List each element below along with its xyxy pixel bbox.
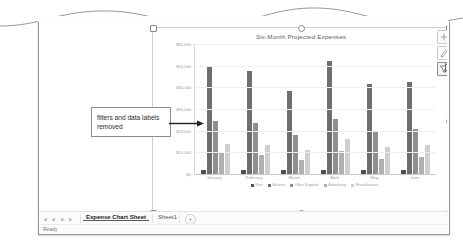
bar[interactable] [361,170,366,174]
gridline [195,44,436,45]
bar[interactable] [201,170,206,174]
chart-side-buttons [437,30,447,78]
x-axis-tick-label: June [396,175,434,180]
legend-swatch [251,184,254,187]
bar[interactable] [327,61,332,174]
plot-area[interactable] [194,44,436,175]
bar[interactable] [265,145,270,174]
nav-next-sheet-button[interactable]: ▶ [61,216,65,222]
chart-sheet-canvas: Six-Month Projected Expenses $60,000$50,… [39,23,447,211]
bar[interactable] [293,135,298,174]
legend-item[interactable]: Office Supplies [290,183,319,187]
y-axis-tick-label: $40,000 [176,85,191,90]
legend-item[interactable]: Rent [251,183,263,187]
chart-handle-middle-right[interactable] [446,118,447,125]
x-axis-labels[interactable]: JanuaryFebruaryMarchAprilMayJune [194,175,435,180]
chart-title[interactable]: Six-Month Projected Expenses [153,33,447,40]
bar[interactable] [299,160,304,174]
y-axis-tick-label: $20,000 [176,128,191,133]
legend-label: Rent [255,183,263,187]
bar[interactable] [425,145,430,174]
bar[interactable] [207,66,212,174]
bar[interactable] [259,155,264,175]
plus-icon [439,32,447,42]
chart-elements-button[interactable] [437,30,447,44]
chart-handle-top-left[interactable] [150,25,157,32]
bar[interactable] [225,144,230,174]
bar[interactable] [287,91,292,174]
bar[interactable] [407,82,412,174]
status-text: Ready [43,226,57,232]
status-bar: Ready [39,224,447,234]
legend-label: Advertising [328,183,346,187]
y-axis-tick-label: $60,000 [176,42,191,47]
y-axis-tick-label: $50,000 [176,63,191,68]
figure-page: Six-Month Projected Expenses $60,000$50,… [0,0,463,247]
nav-prev-sheet-button[interactable]: ◀ [51,216,55,222]
bar[interactable] [379,159,384,174]
bar[interactable] [333,119,338,174]
y-axis-tick-label: $10,000 [176,150,191,155]
x-axis-tick-label: May [356,175,394,180]
sheet-tab-bar: ◀ ◀ ▶ ▶ Expense Chart Sheet Sheet1 + [39,211,447,225]
bar[interactable] [281,170,286,174]
gridline [195,131,436,132]
sheet-tab-expense-chart-sheet[interactable]: Expense Chart Sheet [83,214,149,221]
chart-styles-button[interactable] [437,46,447,60]
bar[interactable] [413,129,418,175]
x-axis-tick-label: February [235,175,273,180]
bar[interactable] [345,139,350,174]
bar[interactable] [339,151,344,174]
annotation-callout: filters and data labels removed [91,107,171,137]
gridline [195,66,436,67]
gridline [195,152,436,153]
chart-handle-top-center[interactable] [298,25,305,32]
gridline [195,109,436,110]
annotation-arrow [169,120,205,127]
bar[interactable] [305,150,310,174]
x-axis-tick-label: March [275,175,313,180]
legend-swatch [290,184,293,187]
chart-plot-wrapper: $60,000$50,000$40,000$30,000$20,000$10,0… [167,44,435,186]
gridline [195,87,436,88]
chart-object[interactable]: Six-Month Projected Expenses $60,000$50,… [152,27,447,211]
bar[interactable] [241,170,246,174]
nav-last-sheet-button[interactable]: ▶ [69,216,73,222]
annotation-text: filters and data labels removed [97,113,167,131]
chart-legend[interactable]: RentSalariesOffice SuppliesAdvertisingMi… [194,183,435,187]
legend-item[interactable]: Advertising [324,183,346,187]
x-axis-tick-label: April [316,175,354,180]
nav-first-sheet-button[interactable]: ◀ [43,216,47,222]
legend-item[interactable]: Miscellaneous [351,183,378,187]
bar[interactable] [321,170,326,174]
tab-divider [80,214,81,223]
tab-divider [152,214,153,223]
legend-swatch [351,184,354,187]
brush-icon [439,48,447,58]
bar[interactable] [213,121,218,174]
bar[interactable] [419,157,424,174]
sheet-tab-sheet1[interactable]: Sheet1 [155,214,180,220]
legend-label: Miscellaneous [356,183,379,187]
bar[interactable] [219,153,224,174]
y-axis-tick-label: $30,000 [176,107,191,112]
legend-label: Office Supplies [295,183,319,187]
legend-swatch [324,184,327,187]
bar[interactable] [367,84,372,174]
legend-label: Salaries [272,183,285,187]
legend-item[interactable]: Salaries [268,183,285,187]
y-axis-tick-label: $0 [186,172,191,177]
bar[interactable] [401,170,406,174]
tab-divider [179,214,180,223]
legend-swatch [268,184,271,187]
bar[interactable] [385,147,390,174]
mouse-cursor-icon [445,63,447,74]
x-axis-tick-label: January [195,175,233,180]
